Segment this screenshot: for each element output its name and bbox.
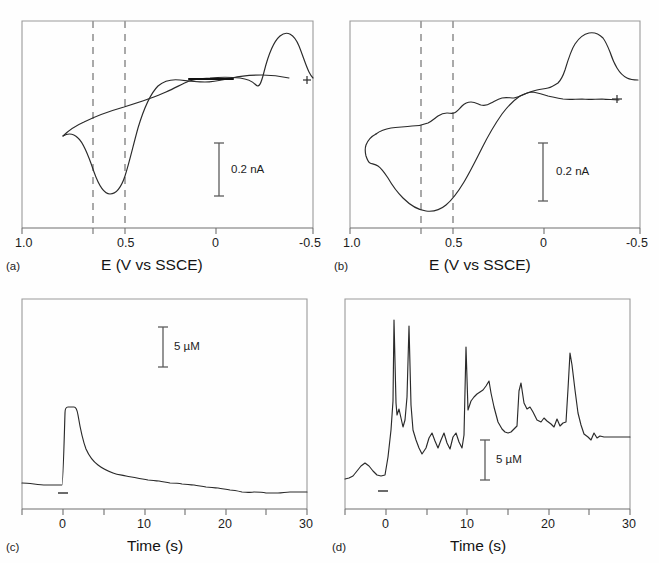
trace-a-anodic	[63, 33, 313, 136]
panel-c: 0 10 20 30 Time (s) (c) 5 µM	[0, 285, 330, 563]
panel-letter-c: (c)	[6, 541, 19, 553]
scalebar-label-a: 0.2 nA	[231, 163, 264, 175]
scalebar-label-d: 5 µM	[496, 453, 522, 465]
plot-frame-a	[22, 21, 313, 228]
scalebar-b	[538, 143, 548, 201]
trace-b-anodic	[376, 33, 638, 134]
scalebar-a	[214, 143, 224, 196]
x-ticklabel-b-1: 0.5	[445, 236, 463, 250]
x-ticklabel-a-2: 0	[212, 236, 219, 250]
x-ticklabel-a-3: -0.5	[299, 236, 321, 250]
panel-a-plot	[0, 0, 330, 290]
panel-letter-d: (d)	[332, 541, 346, 553]
panel-letter-b: (b)	[334, 260, 348, 272]
x-ticks-b	[350, 228, 640, 234]
x-axis-title-d: Time (s)	[450, 537, 506, 555]
x-ticklabel-d-3: 30	[622, 517, 636, 531]
x-ticks-c	[22, 509, 307, 515]
scalebar-d	[480, 440, 490, 480]
panel-letter-a: (a)	[6, 260, 20, 272]
scalebar-c	[158, 327, 168, 367]
panel-a: 1.0 0.5 0 -0.5 E (V vs SSCE) (a) 0.2 nA	[0, 0, 330, 290]
x-ticklabel-b-3: -0.5	[626, 236, 648, 250]
trace-c-release	[22, 407, 307, 493]
x-ticklabel-a-0: 1.0	[15, 236, 33, 250]
x-ticklabel-c-1: 10	[137, 517, 151, 531]
x-ticklabel-c-3: 30	[299, 517, 313, 531]
plot-frame-c	[22, 299, 307, 509]
x-ticks-d	[345, 509, 630, 515]
panel-b-plot	[330, 0, 659, 290]
x-ticklabel-d-0: 0	[382, 517, 389, 531]
trace-b-cathodic	[365, 92, 619, 211]
x-ticklabel-a-1: 0.5	[117, 236, 135, 250]
x-ticklabel-c-0: 0	[59, 517, 66, 531]
x-axis-title-b: E (V vs SSCE)	[429, 256, 531, 274]
trace-d-spiking	[345, 320, 630, 479]
x-ticklabel-d-2: 20	[541, 517, 555, 531]
x-ticklabel-d-1: 10	[460, 517, 474, 531]
x-ticklabel-b-0: 1.0	[343, 236, 361, 250]
trace-a-cathodic	[63, 75, 289, 194]
x-axis-title-a: E (V vs SSCE)	[101, 256, 203, 274]
x-ticklabel-c-2: 20	[218, 517, 232, 531]
switching-marker-a	[303, 76, 311, 84]
x-ticks-a	[22, 228, 313, 234]
plot-frame-d	[345, 299, 630, 509]
panel-b: 1.0 0.5 0 -0.5 E (V vs SSCE) (b) 0.2 nA	[330, 0, 659, 290]
scalebar-label-c: 5 µM	[174, 340, 200, 352]
scalebar-label-b: 0.2 nA	[556, 165, 589, 177]
figure-canvas: 1.0 0.5 0 -0.5 E (V vs SSCE) (a) 0.2 nA	[0, 0, 659, 563]
panel-d: 0 10 20 30 Time (s) (d) 5 µM	[330, 285, 659, 563]
panel-c-plot	[0, 285, 330, 563]
x-axis-title-c: Time (s)	[127, 537, 183, 555]
switching-marker-b	[612, 95, 622, 103]
panel-d-plot	[330, 285, 659, 563]
x-ticklabel-b-2: 0	[540, 236, 547, 250]
